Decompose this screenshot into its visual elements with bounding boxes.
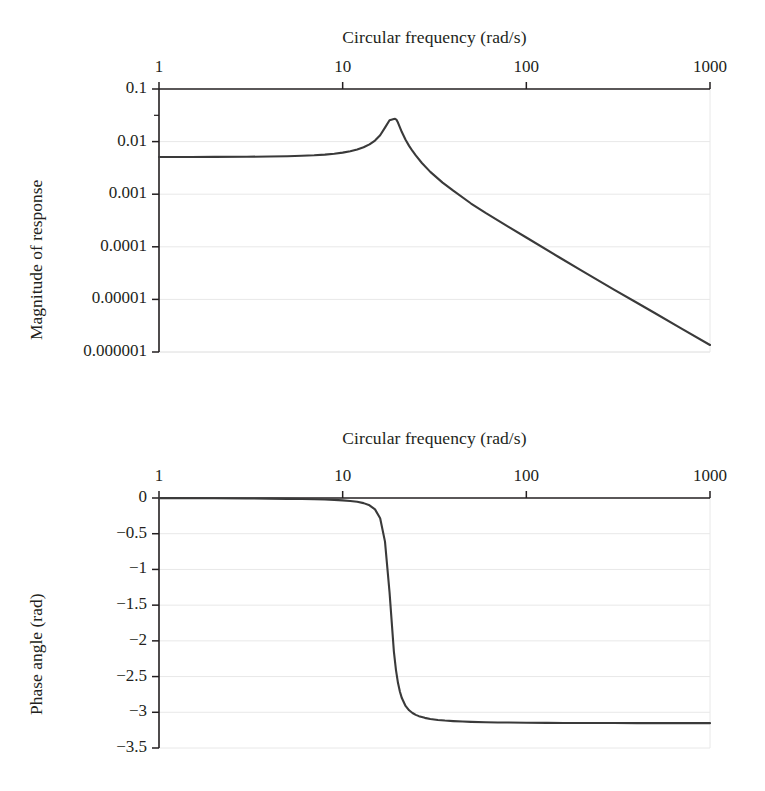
phase-x-tick-label: 10 [298,466,388,486]
phase-y-tick-label: 0 [0,487,147,507]
magnitude-y-tick-label: 0.0001 [0,236,147,256]
phase-y-tick-label: −1 [0,558,147,578]
magnitude-y-tick-label: 0.001 [0,183,147,203]
magnitude-x-tick-label: 100 [481,57,571,77]
phase-y-tick-label: −3.5 [0,737,147,757]
magnitude-x-tick-label: 1000 [665,57,755,77]
magnitude-x-tick-label: 1 [114,57,204,77]
magnitude-plot-panel: Circular frequency (rad/s) Magnitude of … [0,0,765,400]
magnitude-y-tick-label: 0.1 [0,78,147,98]
phase-y-tick-label: −0.5 [0,523,147,543]
magnitude-y-tick-label: 0.01 [0,131,147,151]
bode-plot-figure: Circular frequency (rad/s) Magnitude of … [0,0,765,791]
figure-caption [18,777,758,791]
phase-y-tick-label: −3 [0,701,147,721]
phase-y-tick-label: −2.5 [0,666,147,686]
phase-y-tick-label: −1.5 [0,594,147,614]
magnitude-response-curve [159,119,710,345]
phase-x-tick-label: 1 [114,466,204,486]
phase-angle-curve [159,498,710,723]
phase-plot-panel: Circular frequency (rad/s) Phase angle (… [0,405,765,785]
magnitude-y-tick-label: 0.000001 [0,341,147,361]
phase-x-tick-label: 100 [481,466,571,486]
magnitude-y-tick-label: 0.00001 [0,288,147,308]
phase-y-tick-label: −2 [0,630,147,650]
magnitude-x-tick-label: 10 [298,57,388,77]
phase-x-tick-label: 1000 [665,466,755,486]
